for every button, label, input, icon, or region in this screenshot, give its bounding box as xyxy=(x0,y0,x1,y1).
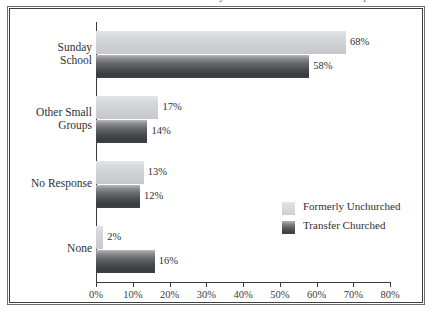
category-label: SundaySchool xyxy=(0,41,92,67)
x-tick-80 xyxy=(390,282,391,287)
legend-label: Transfer Churched xyxy=(303,219,385,231)
plot-area: 0%10%20%30%40%50%60%70%80% 68%58%17%14%1… xyxy=(96,22,390,282)
category-label: No Response xyxy=(0,177,92,190)
x-tick-label: 40% xyxy=(223,289,263,300)
chart-figure: Current Involvement in Sunday School or … xyxy=(0,0,448,317)
category-label-line: School xyxy=(60,54,92,66)
category-label: Other SmallGroups xyxy=(0,106,92,132)
bar-formerly-unchurched xyxy=(96,96,158,119)
bar-transfer-churched xyxy=(96,55,309,78)
x-tick-50 xyxy=(280,282,281,287)
category-axis-labels: SundaySchoolOther SmallGroupsNo Response… xyxy=(0,22,92,282)
bar-transfer-churched xyxy=(96,120,147,143)
category-label-line: No Response xyxy=(31,177,92,189)
x-tick-10 xyxy=(133,282,134,287)
category-label: None xyxy=(0,242,92,255)
bar-formerly-unchurched xyxy=(96,161,144,184)
x-tick-label: 50% xyxy=(260,289,300,300)
legend-swatch-light xyxy=(282,202,295,215)
category-label-line: Other Small xyxy=(36,106,92,118)
bar-value-label: 2% xyxy=(107,231,121,242)
x-tick-label: 30% xyxy=(186,289,226,300)
x-tick-label: 60% xyxy=(297,289,337,300)
bar-value-label: 13% xyxy=(148,166,167,177)
x-tick-70 xyxy=(353,282,354,287)
bar-value-label: 17% xyxy=(162,101,181,112)
bar-transfer-churched xyxy=(96,250,155,273)
bar-value-label: 12% xyxy=(144,190,163,201)
x-tick-label: 10% xyxy=(113,289,153,300)
x-tick-label: 0% xyxy=(76,289,116,300)
legend-swatch-dark xyxy=(282,221,295,234)
bar-formerly-unchurched xyxy=(96,226,103,249)
x-tick-label: 20% xyxy=(150,289,190,300)
bar-transfer-churched xyxy=(96,185,140,208)
legend-label: Formerly Unchurched xyxy=(303,200,400,212)
chart-title-cropped: Current Involvement in Sunday School or … xyxy=(0,0,448,3)
x-tick-label: 80% xyxy=(370,289,410,300)
x-tick-40 xyxy=(243,282,244,287)
category-label-line: Sunday xyxy=(58,41,93,53)
bar-value-label: 58% xyxy=(313,60,332,71)
x-tick-0 xyxy=(96,282,97,287)
category-label-line: None xyxy=(67,242,92,254)
category-label-line: Groups xyxy=(58,119,92,131)
bar-formerly-unchurched xyxy=(96,31,346,54)
bar-value-label: 14% xyxy=(151,125,170,136)
bar-value-label: 68% xyxy=(350,36,369,47)
x-tick-60 xyxy=(317,282,318,287)
x-tick-label: 70% xyxy=(333,289,373,300)
bar-value-label: 16% xyxy=(159,255,178,266)
x-tick-20 xyxy=(170,282,171,287)
x-tick-30 xyxy=(206,282,207,287)
